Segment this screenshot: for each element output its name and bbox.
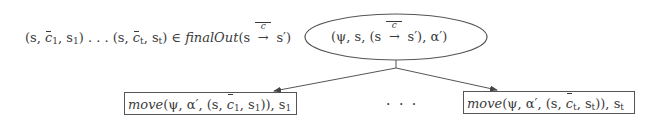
labeled-arrow: c→ xyxy=(254,30,272,45)
function-name: finalOut xyxy=(185,30,238,45)
c-bar: c xyxy=(566,92,573,115)
edge-to-child-t xyxy=(396,68,497,90)
text: (s, xyxy=(25,30,45,45)
child-node-t: move(ψ, α′, (s, ct, st)), st xyxy=(463,91,635,114)
condition-formula: (s, c1, s1) . . . (s, ct, st) ∈ finalOut… xyxy=(25,30,291,46)
c-bar: c xyxy=(133,30,140,45)
edge-to-child-1 xyxy=(274,68,396,91)
root-node-label: (ψ, s, (s c→ s′), α′) xyxy=(331,29,447,44)
child-node-1: move(ψ, α′, (s, c1, s1)), s1 xyxy=(124,92,297,115)
function-name: move xyxy=(128,97,163,112)
c-bar: c xyxy=(45,30,52,45)
function-name: move xyxy=(467,96,502,111)
ellipsis: · · · xyxy=(386,96,418,112)
c-bar: c xyxy=(227,93,234,116)
labeled-arrow: c→ xyxy=(385,29,403,44)
